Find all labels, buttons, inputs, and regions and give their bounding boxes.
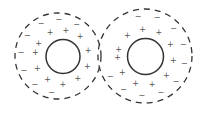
right-inner-plus-sign: + bbox=[163, 71, 170, 80]
left-inner-plus-sign: + bbox=[47, 28, 54, 37]
right-outer-minus-sign: − bbox=[139, 91, 146, 100]
right-inner-plus-sign: + bbox=[167, 40, 174, 49]
left-outer-minus-sign: − bbox=[21, 66, 28, 75]
left-outer-minus-sign: − bbox=[18, 48, 25, 57]
left-inner-plus-sign: + bbox=[32, 48, 39, 57]
left-inner-charges: +++++++++++ bbox=[32, 26, 92, 89]
right-inner-plus-sign: + bbox=[170, 56, 177, 65]
right-outer-minus-sign: − bbox=[107, 72, 114, 81]
charge-diagram: +++++++++++ −−−−−−−− +++++++++++ −−−−−−−… bbox=[0, 0, 208, 115]
left-inner-plus-sign: + bbox=[34, 64, 41, 73]
left-inner-plus-sign: + bbox=[77, 32, 84, 41]
right-outer-minus-sign: − bbox=[157, 88, 164, 97]
left-inner-plus-sign: + bbox=[60, 80, 67, 89]
right-inner-plus-sign: + bbox=[114, 53, 121, 62]
right-inner-plus-sign: + bbox=[156, 28, 163, 37]
left-outer-minus-sign: − bbox=[32, 80, 39, 89]
left-inner-plus-sign: + bbox=[44, 75, 51, 84]
left-inner-conductor bbox=[46, 40, 80, 74]
right-inner-plus-sign: + bbox=[149, 80, 156, 89]
right-inner-plus-sign: + bbox=[124, 31, 131, 40]
left-outer-minus-sign: − bbox=[56, 15, 63, 24]
right-outer-minus-sign: − bbox=[180, 40, 187, 49]
right-outer-minus-sign: − bbox=[181, 59, 188, 68]
left-outer-minus-sign: − bbox=[48, 88, 55, 97]
left-sphere-group: +++++++++++ −−−−−−−− bbox=[15, 13, 101, 99]
left-inner-plus-sign: + bbox=[84, 62, 91, 71]
right-outer-minus-sign: − bbox=[173, 77, 180, 86]
right-outer-dashed-boundary bbox=[98, 9, 192, 103]
left-inner-plus-sign: + bbox=[75, 74, 82, 83]
left-inner-plus-sign: + bbox=[85, 46, 92, 55]
left-outer-minus-sign: − bbox=[24, 31, 31, 40]
right-sphere-group: +++++++++++ −−−−−−−−−− bbox=[98, 9, 192, 103]
left-outer-minus-sign: − bbox=[73, 20, 80, 29]
right-inner-conductor bbox=[128, 39, 164, 75]
right-outer-minus-sign: − bbox=[170, 24, 177, 33]
right-inner-charges: +++++++++++ bbox=[114, 25, 177, 89]
left-outer-minus-sign: − bbox=[38, 19, 45, 28]
right-outer-minus-sign: − bbox=[120, 85, 127, 94]
right-outer-minus-sign: − bbox=[135, 12, 142, 21]
left-inner-plus-sign: + bbox=[35, 39, 42, 48]
right-outer-minus-sign: − bbox=[154, 13, 161, 22]
left-outer-dashed-boundary bbox=[15, 13, 101, 99]
right-inner-plus-sign: + bbox=[139, 25, 146, 34]
right-inner-plus-sign: + bbox=[132, 79, 139, 88]
right-inner-plus-sign: + bbox=[119, 68, 126, 77]
left-inner-plus-sign: + bbox=[62, 26, 69, 35]
